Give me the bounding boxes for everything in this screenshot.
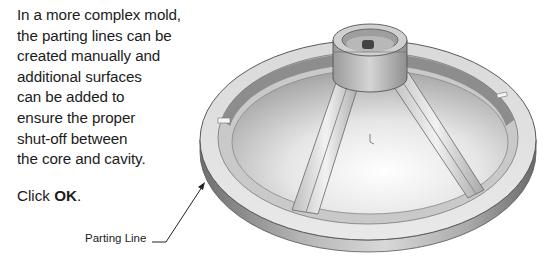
hub — [333, 24, 407, 92]
parting-line-leader — [152, 182, 205, 242]
arrowhead-icon — [198, 182, 205, 190]
parting-line-callout-label: Parting Line — [85, 232, 146, 244]
mold-part-illustration — [0, 0, 545, 269]
